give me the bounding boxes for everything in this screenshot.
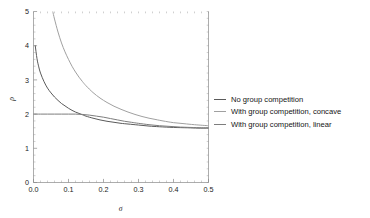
series-line-3: [34, 114, 209, 128]
y-tick-label: 1: [25, 144, 29, 153]
y-tick-label: 4: [25, 41, 29, 50]
legend-item[interactable]: With group competition, linear: [214, 118, 366, 131]
x-tick-label: 0.0: [29, 185, 39, 194]
y-tick-label: 0: [25, 178, 29, 187]
x-tick-label: 0.5: [204, 185, 214, 194]
x-tick-label: 0.4: [169, 185, 179, 194]
chart-figure: 0.00.10.20.30.40.5012345 σ ρ No group co…: [0, 0, 370, 218]
x-axis-title: σ: [119, 204, 123, 213]
legend-item-label: With group competition, concave: [231, 107, 341, 116]
data-curves: [34, 12, 209, 129]
y-tick-label: 3: [25, 76, 29, 85]
y-tick-label: 5: [25, 7, 29, 16]
x-tick-label: 0.3: [134, 185, 144, 194]
legend-swatch-line-icon: [214, 111, 226, 112]
legend-swatch-line-icon: [214, 99, 226, 100]
legend-item[interactable]: With group competition, concave: [214, 106, 366, 119]
axis-tick-labels: 0.00.10.20.30.40.5012345: [25, 7, 214, 194]
legend-item[interactable]: No group competition: [214, 93, 366, 106]
legend-swatch-line-icon: [214, 124, 226, 125]
legend-item-label: With group competition, linear: [231, 120, 331, 129]
chart-legend: No group competitionWith group competiti…: [214, 93, 366, 131]
y-axis-title: ρ: [7, 97, 16, 102]
y-tick-label: 2: [25, 110, 29, 119]
legend-item-label: No group competition: [231, 95, 303, 104]
series-line-1: [35, 46, 208, 128]
x-tick-label: 0.2: [99, 185, 109, 194]
x-tick-label: 0.1: [64, 185, 74, 194]
series-line-2: [53, 12, 209, 126]
